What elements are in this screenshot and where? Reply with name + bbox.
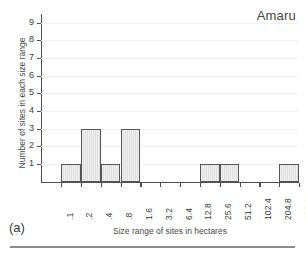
y-axis-tick-label: 2 bbox=[29, 140, 34, 151]
x-axis-tick-label: 1.6 bbox=[144, 208, 154, 220]
gridline bbox=[41, 23, 299, 24]
figure-panel: Amaru Number of sites in each size range… bbox=[0, 0, 305, 256]
y-axis-tick-label: 7 bbox=[29, 52, 34, 63]
bar bbox=[279, 164, 299, 182]
y-axis-tick-label: 8 bbox=[29, 34, 34, 45]
y-axis-tick: 9 bbox=[37, 23, 41, 24]
bar bbox=[101, 164, 121, 182]
gridline bbox=[41, 129, 299, 130]
x-axis-tick-label: .2 bbox=[84, 213, 94, 220]
bar bbox=[81, 129, 101, 182]
y-axis-tick-label: 3 bbox=[29, 123, 34, 134]
x-axis-tick-label: 12.8 bbox=[203, 203, 213, 220]
plot-inner: 123456789 bbox=[41, 14, 299, 183]
bar bbox=[61, 164, 81, 182]
bar bbox=[200, 164, 220, 182]
y-axis-tick: 1 bbox=[37, 164, 41, 165]
x-axis-tick-labels: .1.2.4.81.63.26.412.825.651.2102.4204.84… bbox=[41, 186, 299, 222]
y-axis-tick-label: 4 bbox=[29, 105, 34, 116]
x-axis-tick-label: 102.4 bbox=[263, 198, 273, 220]
bar bbox=[220, 164, 240, 182]
x-axis-title: Size range of sites in hectares bbox=[41, 226, 299, 236]
x-axis-tick-label: 25.6 bbox=[223, 203, 233, 220]
x-axis-tick-label: .8 bbox=[124, 213, 134, 220]
gridline bbox=[41, 58, 299, 59]
x-axis-tick bbox=[299, 183, 300, 188]
y-axis-tick: 4 bbox=[37, 111, 41, 112]
gridline bbox=[41, 111, 299, 112]
x-axis-tick-label: 3.2 bbox=[164, 208, 174, 220]
y-axis-tick-label: 9 bbox=[29, 17, 34, 28]
gridline bbox=[41, 40, 299, 41]
gridline bbox=[41, 146, 299, 147]
x-axis-tick-label: .4 bbox=[104, 213, 114, 220]
plot-area: 123456789 bbox=[41, 14, 299, 183]
x-axis-tick-label: .1 bbox=[65, 213, 75, 220]
y-axis-tick: 3 bbox=[37, 129, 41, 130]
y-axis-tick: 7 bbox=[37, 58, 41, 59]
y-axis-tick: 2 bbox=[37, 146, 41, 147]
panel-label: (a) bbox=[9, 220, 25, 235]
x-axis-tick-label: 204.8 bbox=[283, 198, 293, 220]
y-axis-tick-label: 5 bbox=[29, 87, 34, 98]
x-axis-tick-label: 409.6 bbox=[303, 198, 306, 220]
y-axis-tick-label: 6 bbox=[29, 70, 34, 81]
y-axis-tick: 8 bbox=[37, 40, 41, 41]
bottom-divider bbox=[10, 246, 295, 248]
gridline bbox=[41, 76, 299, 77]
x-axis-tick-label: 51.2 bbox=[243, 203, 253, 220]
y-axis-title: Number of sites in each size range bbox=[17, 18, 27, 188]
bar bbox=[121, 129, 141, 182]
gridline bbox=[41, 93, 299, 94]
y-axis-tick: 6 bbox=[37, 76, 41, 77]
x-axis-tick-label: 6.4 bbox=[184, 208, 194, 220]
y-axis-tick: 5 bbox=[37, 93, 41, 94]
y-axis-tick-label: 1 bbox=[29, 158, 34, 169]
